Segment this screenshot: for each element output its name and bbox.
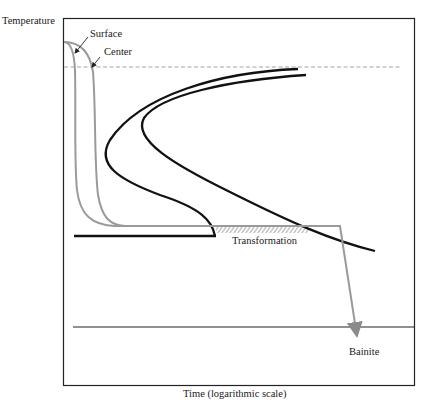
- y-axis-label: Temperature: [2, 16, 55, 27]
- bainite-label: Bainite: [349, 347, 379, 358]
- transformation-hatching: [216, 227, 308, 233]
- ttt-diagram: [0, 0, 427, 402]
- transformation-label: Transformation: [232, 236, 297, 247]
- transformation-finish-curve: [142, 75, 375, 251]
- center-label: Center: [104, 47, 132, 58]
- center-cooling-curve: [64, 42, 356, 330]
- x-axis-label: Time (logarithmic scale): [183, 389, 286, 400]
- surface-cooling-curve: [64, 42, 200, 226]
- center-label-arrow: [92, 57, 100, 67]
- plot-frame: [64, 19, 415, 386]
- surface-label: Surface: [90, 29, 122, 40]
